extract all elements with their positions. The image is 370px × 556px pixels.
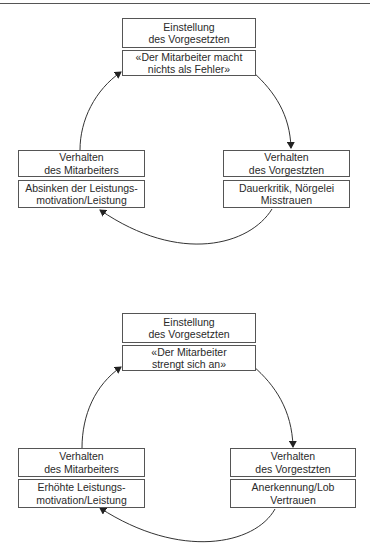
d1-top-title-line2: des Vorgesetzten xyxy=(148,33,229,46)
d2-left-title-line1: Verhalten xyxy=(59,450,103,463)
d1-left-detail-line2: motivation/Leistung xyxy=(36,194,126,207)
d1-top-detail-line2: nichts als Fehler» xyxy=(148,63,230,76)
arrow-left-to-top xyxy=(80,72,121,150)
arrow-right-to-left xyxy=(100,209,272,244)
d2-left-detail-line2: motivation/Leistung xyxy=(36,494,126,507)
d1-top-detail-line1: «Der Mitarbeiter macht xyxy=(136,51,243,64)
d1-left-title-line1: Verhalten xyxy=(59,151,103,164)
d1-top-title-line1: Einstellung xyxy=(163,21,214,34)
d2-top-title-line2: des Vorgesetzten xyxy=(148,328,229,341)
d1-right-title-box: Verhalten des Vorgestzten xyxy=(223,150,350,177)
d2-top-title-box: Einstellung des Vorgesetzten xyxy=(122,313,256,343)
d2-right-detail-line1: Anerkennung/Lob xyxy=(252,481,335,494)
d2-top-detail-box: «Der Mitarbeiter strengt sich an» xyxy=(122,345,256,371)
d2-right-title-line2: des Vorgestzten xyxy=(255,463,330,476)
d1-right-title-line2: des Vorgestzten xyxy=(249,164,324,177)
d2-right-detail-line2: Vertrauen xyxy=(270,494,316,507)
arrow-left-to-top-2 xyxy=(82,367,121,448)
d2-right-title-box: Verhalten des Vorgestzten xyxy=(230,448,356,477)
d1-left-title-box: Verhalten des Mitarbeiters xyxy=(18,150,145,177)
d2-left-detail-line1: Erhöhte Leistungs- xyxy=(37,481,125,494)
d1-left-detail-line1: Absinken der Leistungs- xyxy=(25,182,138,195)
d1-top-title-box: Einstellung des Vorgesetzten xyxy=(122,18,256,48)
d1-right-detail-line1: Dauerkritik, Nörgelei xyxy=(239,182,334,195)
d2-top-detail-line2: strengt sich an» xyxy=(152,358,226,371)
d1-right-detail-box: Dauerkritik, Nörgelei Misstrauen xyxy=(223,180,350,208)
d2-left-title-box: Verhalten des Mitarbeiters xyxy=(18,448,145,477)
d2-left-detail-box: Erhöhte Leistungs- motivation/Leistung xyxy=(18,479,145,508)
d1-left-title-line2: des Mitarbeiters xyxy=(44,164,119,177)
arrow-right-to-left-2 xyxy=(100,508,275,542)
d1-top-detail-box: «Der Mitarbeiter macht nichts als Fehler… xyxy=(122,50,256,76)
d2-right-title-line1: Verhalten xyxy=(271,450,315,463)
d2-left-title-line2: des Mitarbeiters xyxy=(44,463,119,476)
arrow-top-to-right-2 xyxy=(253,366,293,447)
d1-right-detail-line2: Misstrauen xyxy=(261,194,312,207)
d2-top-title-line1: Einstellung xyxy=(163,316,214,329)
d2-top-detail-line1: «Der Mitarbeiter xyxy=(151,346,226,359)
d1-left-detail-box: Absinken der Leistungs- motivation/Leist… xyxy=(18,180,145,208)
d1-right-title-line1: Verhalten xyxy=(264,151,308,164)
d2-right-detail-box: Anerkennung/Lob Vertrauen xyxy=(230,479,356,508)
arrow-top-to-right xyxy=(253,72,291,148)
